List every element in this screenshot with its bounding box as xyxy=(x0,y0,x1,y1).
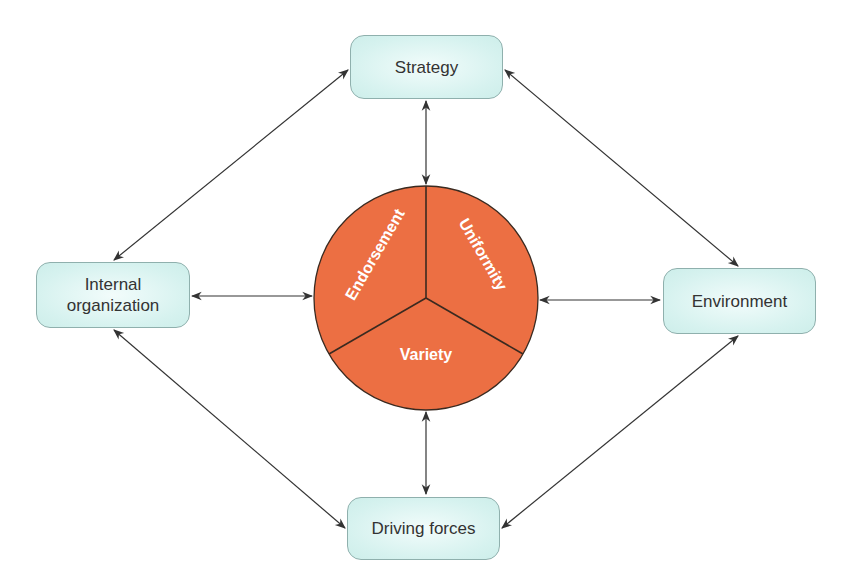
node-strategy: Strategy xyxy=(350,35,503,99)
arrow-internal-driving xyxy=(114,330,345,528)
arrow-strategy-environment xyxy=(505,70,738,266)
node-strategy-label: Strategy xyxy=(395,57,458,78)
node-environment-label: Environment xyxy=(692,291,787,312)
node-environment: Environment xyxy=(663,268,816,334)
arrow-environment-driving xyxy=(502,336,738,528)
node-driving-label: Driving forces xyxy=(372,518,476,539)
node-driving-forces: Driving forces xyxy=(347,497,500,560)
segment-variety: Variety xyxy=(400,346,453,363)
node-internal-organization: Internal organization xyxy=(36,262,190,328)
center-circle: Endorsement Uniformity Variety xyxy=(314,186,538,410)
node-internal-label-line2: organization xyxy=(67,295,160,316)
node-internal-label-line1: Internal xyxy=(85,274,142,295)
arrow-strategy-internal xyxy=(114,70,348,260)
